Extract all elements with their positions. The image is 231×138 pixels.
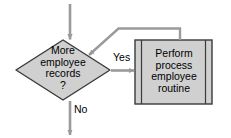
process-shape	[135, 40, 212, 104]
flowchart-svg	[0, 0, 231, 138]
flowchart-canvas: More employee records ? Perform process …	[0, 0, 231, 138]
